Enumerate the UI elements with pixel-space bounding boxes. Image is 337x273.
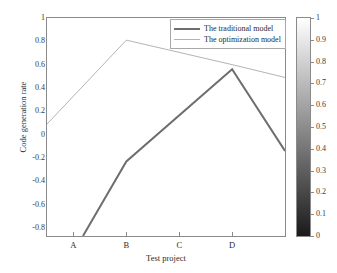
y-tick-label: 0.8 — [35, 37, 45, 45]
legend-item-optimization: The optimization model — [174, 34, 281, 45]
colorbar-tick-mark — [311, 192, 314, 193]
series-line-traditional — [83, 69, 285, 236]
colorbar-tick-label: 0.2 — [316, 188, 326, 196]
x-tick-label: B — [114, 240, 138, 250]
colorbar-tick-mark — [311, 83, 314, 84]
colorbar — [296, 17, 311, 237]
colorbar-tick-mark — [311, 214, 314, 215]
colorbar-tick-label: 0.8 — [316, 58, 326, 66]
legend-label-traditional: The traditional model — [204, 24, 273, 34]
x-tick-mark — [126, 232, 127, 236]
colorbar-tick-label: 0.7 — [316, 79, 326, 87]
y-tick-label: 0.4 — [35, 84, 45, 92]
plot-area — [46, 17, 286, 237]
colorbar-tick-label: 0.5 — [316, 123, 326, 131]
x-axis-label: Test project — [46, 253, 286, 263]
chart-legend: The traditional model The optimization m… — [170, 19, 286, 49]
colorbar-tick-mark — [311, 18, 314, 19]
legend-swatch-traditional — [174, 28, 200, 30]
chart-figure: 10.80.60.40.20-0.2-0.4-0.6-0.8 Code gene… — [0, 0, 337, 273]
x-tick-label: A — [61, 240, 85, 250]
x-tick-mark — [232, 232, 233, 236]
colorbar-tick-mark — [311, 236, 314, 237]
y-tick-label: -0.6 — [32, 201, 45, 209]
y-tick-label: 0 — [41, 131, 45, 139]
y-tick-label: 0.2 — [35, 107, 45, 115]
colorbar-tick-label: 0.9 — [316, 36, 326, 44]
colorbar-tick-mark — [311, 127, 314, 128]
y-tick-label: 0.6 — [35, 61, 45, 69]
colorbar-tick-mark — [311, 171, 314, 172]
colorbar-tick-label: 1 — [316, 14, 320, 22]
x-tick-label: C — [167, 240, 191, 250]
colorbar-tick-label: 0.6 — [316, 101, 326, 109]
colorbar-tick-label: 0.1 — [316, 210, 326, 218]
x-tick-label: D — [220, 240, 244, 250]
colorbar-tick-mark — [311, 62, 314, 63]
legend-swatch-optimization — [174, 39, 200, 40]
colorbar-tick-label: 0.3 — [316, 167, 326, 175]
colorbar-tick-mark — [311, 40, 314, 41]
colorbar-tick-label: 0.4 — [316, 145, 326, 153]
series-canvas — [47, 18, 285, 236]
y-tick-label: -0.2 — [32, 154, 45, 162]
colorbar-tick-mark — [311, 105, 314, 106]
y-tick-label: 1 — [41, 14, 45, 22]
y-tick-label: -0.8 — [32, 224, 45, 232]
legend-item-traditional: The traditional model — [174, 23, 281, 34]
x-tick-mark — [179, 232, 180, 236]
colorbar-tick-label: 0 — [316, 232, 320, 240]
y-tick-label: -0.4 — [32, 177, 45, 185]
x-tick-mark — [73, 232, 74, 236]
y-axis-label: Code generation rate — [18, 47, 28, 187]
series-line-optimization — [47, 40, 285, 124]
colorbar-tick-mark — [311, 149, 314, 150]
legend-label-optimization: The optimization model — [204, 35, 281, 45]
